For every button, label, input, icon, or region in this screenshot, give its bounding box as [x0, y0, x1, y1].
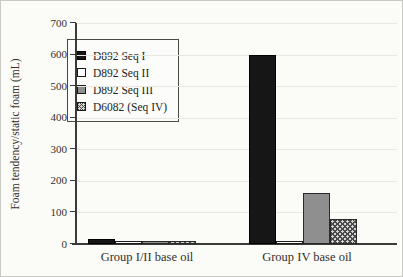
gridline-100: [77, 212, 397, 213]
foam-tendency-bar-chart: Foam tendency/static foam (mL) D892 Seq …: [0, 0, 403, 277]
category-label-group-iv-base-oil: Group IV base oil: [262, 250, 352, 265]
bar-d892-seq-ii-group-iv-base-oil: [276, 241, 303, 244]
gridline-500: [77, 86, 397, 87]
bar-d6082-seq-iv-group-iv-base-oil: [330, 219, 357, 244]
y-axis-line: [75, 23, 77, 244]
y-tick-label-100: 100: [29, 207, 67, 218]
legend-item-d892-seq-ii: D892 Seq II: [77, 64, 167, 81]
legend-item-d892-seq-iii: D892 Seq III: [77, 81, 167, 98]
bar-d892-seq-iii-group-i-ii-base-oil: [142, 241, 169, 244]
y-tick-label-300: 300: [29, 144, 67, 155]
gridline-400: [77, 118, 397, 119]
gridline-200: [77, 181, 397, 182]
legend-label-d6082-seq-iv: D6082 (Seq IV): [93, 101, 167, 113]
bar-d892-seq-iii-group-iv-base-oil: [303, 193, 330, 244]
legend-swatch-d6082-seq-iv: [77, 102, 86, 111]
gridline-600: [77, 55, 397, 56]
y-axis-title: Foam tendency/static foam (mL): [9, 58, 21, 209]
bar-d892-seq-i-group-iv-base-oil: [249, 55, 276, 244]
y-tick-label-400: 400: [29, 112, 67, 123]
legend-label-d892-seq-ii: D892 Seq II: [93, 67, 149, 79]
legend-item-d6082-seq-iv: D6082 (Seq IV): [77, 98, 167, 115]
bar-d892-seq-i-group-i-ii-base-oil: [88, 239, 115, 244]
bar-d6082-seq-iv-group-i-ii-base-oil: [169, 241, 196, 244]
y-tick-label-0: 0: [29, 239, 67, 250]
category-label-group-i-ii-base-oil: Group I/II base oil: [101, 250, 194, 265]
y-tick-label-600: 600: [29, 49, 67, 60]
y-tick-label-200: 200: [29, 175, 67, 186]
y-tick-label-500: 500: [29, 81, 67, 92]
bar-d892-seq-ii-group-i-ii-base-oil: [115, 241, 142, 244]
gridline-300: [77, 149, 397, 150]
y-tick-label-700: 700: [29, 18, 67, 29]
gridline-700: [77, 23, 397, 24]
legend: D892 Seq ID892 Seq IID892 Seq IIID6082 (…: [67, 39, 179, 122]
legend-swatch-d892-seq-ii: [77, 68, 86, 77]
